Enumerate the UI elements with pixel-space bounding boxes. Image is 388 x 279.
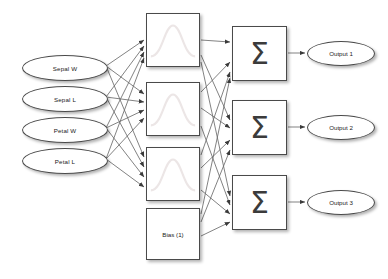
input-node-sepal-l[interactable]: Sepal L (22, 86, 108, 112)
output-node-2[interactable]: Output 2 (307, 115, 375, 140)
bias-label: Bias (1) (162, 231, 183, 238)
input-node-sepal-w[interactable]: Sepal W (22, 55, 108, 81)
gaussian-curve-icon (147, 14, 199, 66)
output-label: Output 3 (329, 199, 353, 206)
input-label: Petal L (55, 158, 75, 165)
hidden-node-2[interactable] (146, 82, 200, 136)
neural-network-diagram: Sepal W Sepal L Petal W Petal L Bias (1)… (0, 0, 388, 279)
output-node-1[interactable]: Output 1 (307, 41, 375, 66)
bias-node[interactable]: Bias (1) (146, 208, 200, 260)
input-node-petal-l[interactable]: Petal L (22, 148, 108, 174)
input-label: Petal W (54, 127, 77, 134)
sigma-icon: Σ (250, 113, 269, 143)
summation-node-2[interactable]: Σ (232, 100, 287, 155)
gaussian-curve-icon (147, 83, 199, 135)
gaussian-curve-icon (147, 148, 199, 200)
output-label: Output 2 (329, 124, 353, 131)
input-label: Sepal W (53, 65, 77, 72)
output-label: Output 1 (329, 50, 353, 57)
output-node-3[interactable]: Output 3 (307, 190, 375, 215)
summation-node-3[interactable]: Σ (232, 175, 287, 230)
sigma-icon: Σ (250, 39, 269, 69)
summation-node-1[interactable]: Σ (232, 26, 287, 81)
hidden-node-1[interactable] (146, 13, 200, 67)
hidden-node-3[interactable] (146, 147, 200, 201)
sigma-icon: Σ (250, 188, 269, 218)
input-node-petal-w[interactable]: Petal W (22, 117, 108, 143)
input-label: Sepal L (54, 96, 76, 103)
